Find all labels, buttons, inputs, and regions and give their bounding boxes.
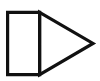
geometric-figure xyxy=(0,0,100,81)
drawing-canvas xyxy=(0,0,100,81)
rectangle-shape xyxy=(8,12,40,74)
